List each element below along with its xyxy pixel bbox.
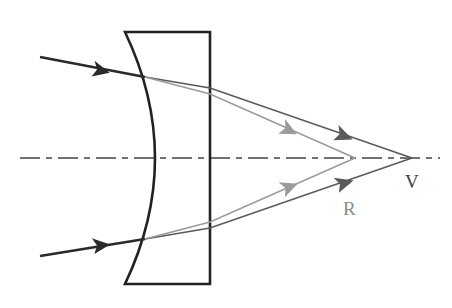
arrow-icon-V-upper <box>333 125 355 146</box>
ray-to-V-lower <box>145 158 412 239</box>
incident-ray-upper <box>40 57 145 77</box>
ray-to-R-lower <box>145 158 355 239</box>
label-R: R <box>343 198 356 219</box>
arrow-icon-incident-lower <box>92 236 111 255</box>
arrow-icon-V-lower <box>334 172 356 193</box>
label-V: V <box>405 171 419 192</box>
ray-to-R-upper <box>145 77 355 158</box>
arrow-icon-R-lower <box>279 175 301 197</box>
ray-to-V-upper <box>145 77 412 158</box>
arrow-icon-R-upper <box>279 119 301 141</box>
incident-ray-lower <box>40 239 145 256</box>
ray-diagram: V R <box>0 0 452 308</box>
